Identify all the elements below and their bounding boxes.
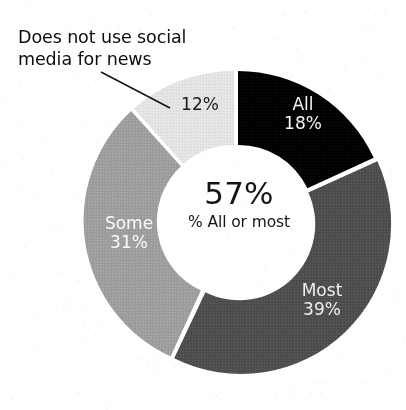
center-caption: % All or most [150, 215, 328, 231]
slice-label-does-not-use: 12% [168, 95, 232, 114]
leader-line [101, 72, 170, 108]
annotation-does-not-use-social-media: Does not use social media for news [18, 26, 233, 71]
slice-label-some: Some 31% [93, 214, 165, 252]
slice-label-most: Most 39% [286, 281, 358, 319]
slice-label-all: All 18% [268, 95, 338, 133]
center-value: 57% [158, 178, 320, 209]
donut-chart-figure: Does not use social media for news 57% %… [0, 0, 406, 410]
